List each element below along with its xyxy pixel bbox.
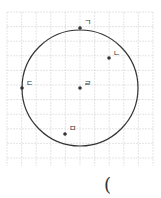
answer-parenthesis: ( (104, 176, 111, 194)
point-dot (78, 86, 82, 90)
point-dot (63, 132, 67, 136)
point-dot (20, 86, 24, 90)
point-dot (107, 56, 111, 60)
circle-diagram: ㄱㄴㄷㄹㅁ (0, 0, 161, 198)
point-label: ㄷ (26, 79, 33, 88)
point-label: ㄱ (84, 18, 91, 27)
point-label: ㄹ (84, 79, 91, 88)
point-label: ㄴ (113, 49, 120, 58)
point-dot (78, 26, 82, 30)
point-label: ㅁ (69, 124, 76, 133)
